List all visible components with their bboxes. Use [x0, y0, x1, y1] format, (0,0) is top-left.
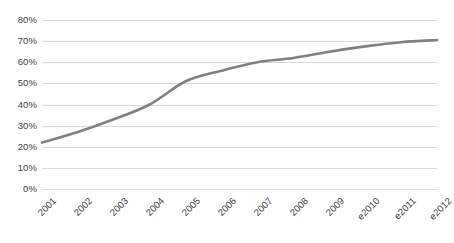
y-axis-tick-label: 10%: [18, 163, 37, 173]
x-axis-tick-label: 2009: [323, 195, 346, 218]
y-axis-tick-label: 60%: [18, 57, 37, 67]
y-axis-tick-label: 30%: [18, 121, 37, 131]
x-axis-tick-label: 2002: [72, 195, 95, 218]
series-line-group: [42, 20, 437, 189]
x-axis-tick-label: 2005: [179, 195, 202, 218]
y-axis-tick-label: 0%: [23, 184, 37, 194]
x-axis-tick-label: e2011: [392, 195, 418, 221]
x-axis: 200120022003200420052006200720082009e201…: [42, 189, 437, 243]
x-axis-tick-label: e2010: [355, 195, 382, 222]
series-line-path: [42, 40, 437, 142]
y-axis-tick-label: 50%: [18, 78, 37, 88]
y-axis-tick-label: 40%: [18, 100, 37, 110]
y-axis-tick-label: 80%: [18, 15, 37, 25]
x-axis-tick-label: 2008: [287, 195, 310, 218]
y-axis: 0%10%20%30%40%50%60%70%80%: [0, 0, 42, 243]
y-axis-tick-label: 20%: [18, 142, 37, 152]
y-axis-tick-label: 70%: [18, 36, 37, 46]
x-axis-tick-label: e2012: [427, 195, 454, 222]
x-axis-tick-label: 2004: [143, 195, 166, 218]
x-axis-tick-label: 2003: [108, 195, 131, 218]
plot-area: [42, 20, 437, 189]
x-axis-tick-label: 2007: [251, 195, 274, 218]
x-axis-tick-label: 2006: [215, 195, 238, 218]
